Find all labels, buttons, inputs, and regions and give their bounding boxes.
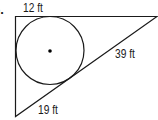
circle-center-dot bbox=[48, 49, 52, 53]
label-top-segment: 12 ft bbox=[23, 2, 43, 14]
label-hypotenuse-segment: 39 ft bbox=[115, 48, 135, 60]
label-bottom-segment: 19 ft bbox=[38, 104, 58, 116]
right-triangle bbox=[16, 17, 158, 117]
